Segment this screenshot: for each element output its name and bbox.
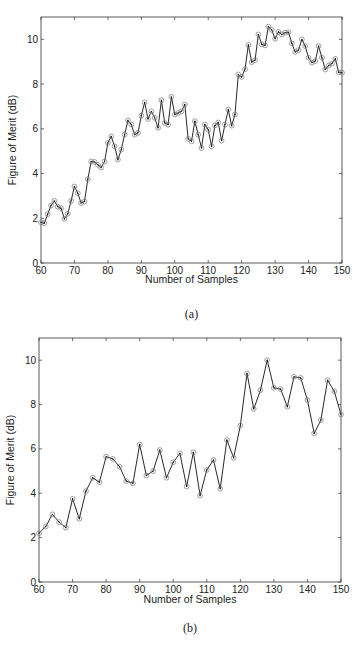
data-point-dot — [171, 96, 172, 97]
y-tick-label: 2 — [30, 532, 36, 543]
data-point-dot — [47, 214, 48, 215]
data-point-dot — [241, 76, 242, 77]
data-point-dot — [238, 74, 239, 75]
data-point-dot — [208, 129, 209, 130]
data-point-dot — [224, 124, 225, 125]
x-axis-label: Number of Samples — [145, 273, 238, 285]
data-point-dot — [90, 161, 91, 162]
data-point-dot — [151, 111, 152, 112]
data-point-dot — [45, 526, 46, 527]
data-point-dot — [157, 127, 158, 128]
data-point-dot — [177, 112, 178, 113]
data-point-dot — [234, 114, 235, 115]
data-point-dot — [44, 222, 45, 223]
y-axis-label: Figure of Merit (dB) — [4, 415, 16, 505]
data-point-dot — [253, 408, 254, 409]
data-point-dot — [57, 206, 58, 207]
data-point-dot — [94, 161, 95, 162]
data-point-dot — [261, 44, 262, 45]
data-point-dot — [74, 186, 75, 187]
data-point-dot — [274, 38, 275, 39]
data-point-dot — [64, 218, 65, 219]
data-point-dot — [298, 49, 299, 50]
data-point-dot — [117, 159, 118, 160]
data-point-dot — [65, 527, 66, 528]
data-point-dot — [308, 57, 309, 58]
y-tick-label: 0 — [32, 258, 38, 269]
x-tick-label: 80 — [102, 265, 114, 276]
data-point-dot — [132, 483, 133, 484]
y-tick-label: 10 — [25, 355, 37, 366]
data-point-dot — [77, 193, 78, 194]
x-tick-label: 150 — [334, 265, 351, 276]
data-point-dot — [226, 439, 227, 440]
data-point-dot — [218, 122, 219, 123]
data-point-dot — [284, 32, 285, 33]
data-point-dot — [134, 134, 135, 135]
data-point-dot — [164, 122, 165, 123]
data-point-dot — [126, 480, 127, 481]
data-point-dot — [281, 34, 282, 35]
y-tick-label: 4 — [32, 168, 38, 179]
data-point-dot — [105, 456, 106, 457]
data-point-dot — [204, 124, 205, 125]
x-tick-label: 80 — [101, 584, 113, 595]
plot-frame — [39, 338, 341, 582]
data-point-dot — [301, 39, 302, 40]
data-point-dot — [80, 202, 81, 203]
data-point-dot — [87, 178, 88, 179]
y-tick-label: 2 — [32, 213, 38, 224]
data-point-dot — [313, 433, 314, 434]
data-point-dot — [104, 161, 105, 162]
data-point-dot — [137, 132, 138, 133]
data-point-dot — [214, 125, 215, 126]
data-point-dot — [246, 373, 247, 374]
data-point-dot — [273, 387, 274, 388]
data-point-dot — [271, 29, 272, 30]
data-point-dot — [206, 469, 207, 470]
series-line — [39, 360, 341, 533]
data-point-dot — [315, 60, 316, 61]
data-point-dot — [280, 388, 281, 389]
data-point-dot — [114, 146, 115, 147]
data-point-dot — [287, 406, 288, 407]
data-point-dot — [111, 136, 112, 137]
data-point-dot — [159, 449, 160, 450]
data-point-dot — [211, 146, 212, 147]
data-point-dot — [85, 490, 86, 491]
data-point-dot — [213, 459, 214, 460]
data-point-dot — [161, 99, 162, 100]
figure-caption: (a) — [185, 307, 198, 321]
data-point-dot — [334, 391, 335, 392]
data-point-dot — [70, 200, 71, 201]
data-point-dot — [184, 104, 185, 105]
data-point-dot — [335, 58, 336, 59]
data-point-dot — [251, 61, 252, 62]
data-point-dot — [146, 475, 147, 476]
data-point-dot — [50, 205, 51, 206]
figure-caption: (b) — [183, 621, 197, 635]
data-point-dot — [340, 414, 341, 415]
data-point-dot — [244, 68, 245, 69]
data-point-dot — [187, 138, 188, 139]
x-tick-label: 130 — [267, 265, 284, 276]
data-point-dot — [67, 213, 68, 214]
data-point-dot — [221, 140, 222, 141]
data-point-dot — [327, 379, 328, 380]
y-tick-label: 8 — [30, 399, 36, 410]
data-point-dot — [338, 72, 339, 73]
y-tick-label: 6 — [30, 443, 36, 454]
y-axis-label: Figure of Merit (dB) — [6, 95, 18, 185]
y-tick-label: 6 — [32, 123, 38, 134]
data-point-dot — [141, 115, 142, 116]
data-point-dot — [328, 65, 329, 66]
x-tick-label: 150 — [333, 584, 350, 595]
data-point-dot — [101, 167, 102, 168]
data-point-dot — [40, 222, 41, 223]
data-point-dot — [197, 134, 198, 135]
data-point-dot — [92, 477, 93, 478]
data-point-dot — [154, 117, 155, 118]
data-point-dot — [268, 26, 269, 27]
data-point-dot — [291, 43, 292, 44]
data-point-dot — [121, 149, 122, 150]
